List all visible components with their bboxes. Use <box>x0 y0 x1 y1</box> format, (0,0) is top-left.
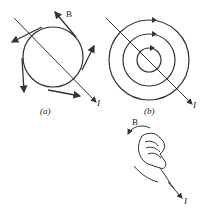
diagram-canvas <box>0 0 201 208</box>
caption-a: (a) <box>40 106 51 116</box>
field-ring-outer <box>109 20 189 100</box>
b-curl-arrow <box>128 126 150 134</box>
i-label-hand: I <box>184 196 187 206</box>
thumb <box>160 168 174 188</box>
wire-b <box>106 18 192 104</box>
b-label-a: B <box>66 9 72 19</box>
wrist <box>134 166 158 182</box>
thumb-current-arrow <box>168 182 182 198</box>
panel-b <box>106 17 192 104</box>
hand-figure <box>128 126 182 198</box>
i-label-a: I <box>97 98 100 108</box>
ring-arrow-middle <box>152 31 157 37</box>
ring-arrow-outer <box>152 17 157 23</box>
field-ring-inner <box>137 48 161 72</box>
b-arrow-right <box>82 46 94 70</box>
b-arrow-bottom <box>48 90 80 96</box>
field-ring-middle <box>123 34 175 86</box>
ring-arrow-inner <box>150 45 155 51</box>
i-label-b: I <box>193 100 196 110</box>
b-label-hand: B <box>132 117 138 127</box>
panel-a <box>12 12 96 102</box>
hand-outline <box>138 133 165 168</box>
caption-b: (b) <box>144 106 155 116</box>
b-arrow-left-top <box>12 27 42 42</box>
wire-a <box>14 18 96 102</box>
